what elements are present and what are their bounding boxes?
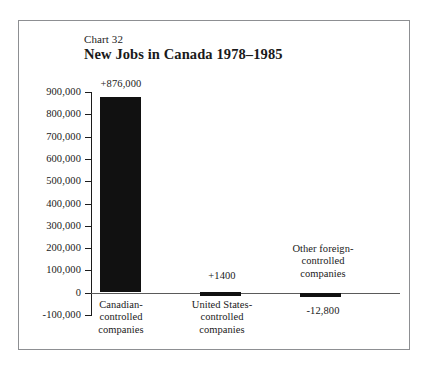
y-axis-tick-mark <box>85 159 91 160</box>
y-axis-tick-mark <box>85 204 91 205</box>
y-axis-tick-mark <box>85 226 91 227</box>
y-axis-tick-label: 200,000 <box>0 243 81 254</box>
bar-value-other-foreign-controlled: -12,800 <box>278 305 368 316</box>
y-axis-tick-label-wrap: 300,000 <box>0 221 81 232</box>
category-label-line-3: companies <box>75 324 167 336</box>
y-axis-tick-label-wrap: 700,000 <box>0 132 81 143</box>
category-label-line-2: controlled <box>75 311 167 323</box>
y-axis-tick-label: -100,000 <box>0 310 81 321</box>
y-axis-tick-label-wrap: 200,000 <box>0 243 81 254</box>
y-axis-tick-mark <box>85 114 91 115</box>
category-label-line-1: Other foreign- <box>277 243 369 255</box>
bar-other-foreign-controlled <box>300 293 341 297</box>
chart-number-label: Chart 32 <box>84 33 123 46</box>
y-axis-tick-mark <box>85 181 91 182</box>
y-axis-tick-mark <box>85 92 91 93</box>
y-axis-tick-label: 700,000 <box>0 132 81 143</box>
category-label-canadian-controlled: Canadian- controlled companies <box>75 299 167 336</box>
y-axis-tick-label-wrap: 400,000 <box>0 199 81 210</box>
y-axis-tick-label-wrap: 900,000 <box>0 87 81 98</box>
y-axis-tick-mark <box>85 137 91 138</box>
y-axis-tick-mark <box>85 248 91 249</box>
y-axis-tick-mark <box>85 270 91 271</box>
y-axis-tick-label: 100,000 <box>0 265 81 276</box>
y-axis-tick-label: 600,000 <box>0 154 81 165</box>
y-axis-tick-label: 400,000 <box>0 199 81 210</box>
y-axis-tick-label-wrap: 0 <box>0 288 81 299</box>
y-axis-tick-label-wrap: -100,000 <box>0 310 81 321</box>
category-label-united-states-controlled: United States- controlled companies <box>176 299 268 336</box>
zero-baseline <box>91 293 400 294</box>
category-label-line-2: controlled <box>277 255 369 267</box>
chart-title: New Jobs in Canada 1978–1985 <box>84 46 283 63</box>
bar-value-united-states-controlled: +1400 <box>177 270 267 281</box>
y-axis-tick-label-wrap: 600,000 <box>0 154 81 165</box>
category-label-line-3: companies <box>277 268 369 280</box>
y-axis-tick-label: 900,000 <box>0 87 81 98</box>
y-axis-tick-label: 800,000 <box>0 109 81 120</box>
y-axis-tick-label-wrap: 800,000 <box>0 109 81 120</box>
y-axis-tick-label-wrap: 500,000 <box>0 176 81 187</box>
category-label-line-3: companies <box>176 324 268 336</box>
bar-value-canadian-controlled: +876,000 <box>76 78 166 89</box>
bar-canadian-controlled <box>100 97 141 292</box>
category-label-line-1: Canadian- <box>75 299 167 311</box>
bar-united-states-controlled <box>200 292 241 296</box>
category-label-other-foreign-controlled: Other foreign- controlled companies <box>277 243 369 280</box>
y-axis-line <box>91 92 92 316</box>
y-axis-tick-label: 300,000 <box>0 221 81 232</box>
category-label-line-1: United States- <box>176 299 268 311</box>
y-axis-tick-label-wrap: 100,000 <box>0 265 81 276</box>
category-label-line-2: controlled <box>176 311 268 323</box>
y-axis-tick-label: 500,000 <box>0 176 81 187</box>
y-axis-tick-label: 0 <box>0 288 81 299</box>
